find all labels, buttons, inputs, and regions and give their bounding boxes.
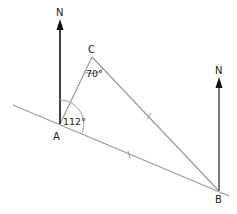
north-label-a: N [56, 7, 63, 18]
line-ab [13, 105, 229, 196]
point-label-c: C [88, 44, 95, 55]
angle-label-a: 112° [63, 116, 86, 127]
bearing-diagram: N N C A B 70° 112° [0, 0, 237, 214]
point-label-a: A [53, 131, 60, 142]
angle-label-c: 70° [86, 68, 103, 79]
line-cb [92, 57, 219, 191]
north-label-b: N [215, 65, 222, 76]
north-arrow-icon [216, 77, 223, 88]
point-label-b: B [215, 194, 222, 205]
diagram-svg: N N C A B 70° 112° [0, 0, 237, 214]
north-arrow-icon [57, 19, 64, 30]
